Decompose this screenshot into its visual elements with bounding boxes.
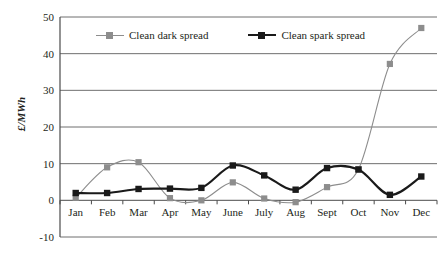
legend-label-clean-dark-spread: Clean dark spread — [129, 29, 208, 41]
legend-swatch-dark — [96, 30, 124, 40]
data-point-marker — [293, 199, 299, 205]
data-point-marker — [261, 172, 267, 178]
data-point-marker — [292, 187, 298, 193]
series-clean-dark-spread — [73, 25, 425, 205]
legend-item-clean-dark-spread[interactable]: Clean dark spread — [96, 29, 208, 41]
legend-item-clean-spark-spread[interactable]: Clean spark spread — [248, 29, 365, 41]
data-point-marker — [135, 186, 141, 192]
series-line — [76, 28, 422, 203]
chart-container: £/MWh 50403020100-10 JanFebMarAprMayJune… — [0, 0, 447, 259]
data-point-marker — [418, 173, 424, 179]
legend-square-marker-icon-spark — [258, 32, 265, 39]
data-point-marker — [73, 190, 79, 196]
data-point-marker — [198, 197, 204, 203]
series-clean-spark-spread — [73, 162, 425, 198]
data-point-marker — [355, 166, 361, 172]
data-point-marker — [230, 179, 236, 185]
data-point-marker — [230, 162, 236, 168]
data-point-marker — [324, 184, 330, 190]
legend-label-clean-spark-spread: Clean spark spread — [281, 29, 365, 41]
data-point-marker — [135, 159, 141, 165]
data-point-marker — [167, 195, 173, 201]
data-point-marker — [324, 165, 330, 171]
legend-swatch-spark — [248, 30, 276, 40]
data-point-marker — [387, 192, 393, 198]
data-point-marker — [387, 61, 393, 67]
data-point-marker — [198, 185, 204, 191]
data-point-marker — [104, 164, 110, 170]
data-point-marker — [167, 185, 173, 191]
series-line — [76, 165, 422, 195]
legend-square-marker-icon-dark — [106, 32, 113, 39]
chart-legend: Clean dark spread Clean spark spread — [96, 29, 365, 41]
data-point-marker — [104, 190, 110, 196]
data-point-marker — [418, 25, 424, 31]
data-point-marker — [261, 195, 267, 201]
